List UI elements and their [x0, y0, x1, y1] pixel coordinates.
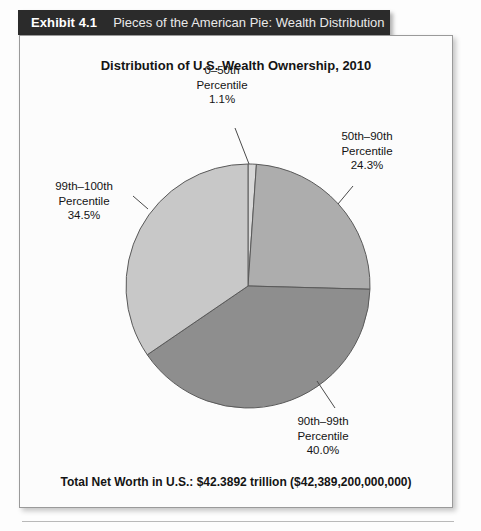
exhibit-number: Exhibit 4.1: [31, 15, 97, 30]
pie-slice: [248, 164, 370, 289]
exhibit-title: Pieces of the American Pie: Wealth Distr…: [113, 15, 384, 30]
leader-line-90-99: [317, 381, 335, 408]
exhibit-panel: Distribution of U.S. Wealth Ownership, 2…: [19, 35, 453, 508]
leader-line-50-90: [338, 186, 353, 204]
pie-chart-svg: [20, 36, 454, 509]
leader-line-0-50: [235, 128, 249, 164]
exhibit-page: Exhibit 4.1 Pieces of the American Pie: …: [0, 0, 481, 531]
pie-chart: 0–50thPercentile1.1% 50th–90thPercentile…: [20, 36, 454, 509]
total-net-worth-note: Total Net Worth in U.S.: $42.3892 trilli…: [20, 475, 452, 489]
page-divider-rule: [22, 521, 454, 522]
exhibit-header-bar: Exhibit 4.1 Pieces of the American Pie: …: [18, 10, 390, 35]
pie-label-50-90-percentile: 50th–90thPercentile24.3%: [312, 129, 422, 173]
pie-label-0-50-percentile: 0–50thPercentile1.1%: [172, 63, 272, 107]
pie-label-99-100-percentile: 99th–100thPercentile34.5%: [26, 179, 142, 223]
pie-slice-group: [126, 164, 370, 408]
pie-label-90-99-percentile: 90th–99thPercentile40.0%: [268, 414, 378, 458]
